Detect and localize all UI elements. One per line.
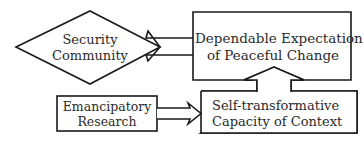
emancipatory-research-line-2: Research	[57, 114, 157, 129]
security-community-label: Security Community	[30, 32, 150, 64]
diagram-canvas: Security Community Dependable Expectatio…	[0, 0, 363, 143]
security-community-line-2: Community	[30, 48, 150, 64]
dependable-expectations-line-2: of Peaceful Change	[195, 47, 351, 64]
security-community-line-1: Security	[30, 32, 150, 48]
emancipatory-research-label: Emancipatory Research	[57, 99, 157, 129]
self-transformative-line-1: Self-transformative	[212, 98, 357, 114]
dependable-expectations-line-1: Dependable Expectations	[195, 30, 351, 47]
self-transformative-line-2: Capacity of Context	[212, 114, 357, 130]
self-transformative-label: Self-transformative Capacity of Context	[212, 98, 357, 130]
dependable-expectations-label: Dependable Expectations of Peaceful Chan…	[195, 30, 351, 64]
arrow-emancipatory-to-selftransformative	[157, 103, 201, 124]
emancipatory-research-line-1: Emancipatory	[57, 99, 157, 114]
